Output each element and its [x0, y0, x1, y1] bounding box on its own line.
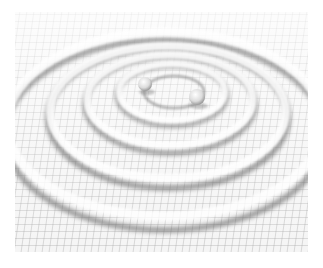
sphere-b-icon — [189, 89, 205, 105]
illustration — [15, 12, 308, 252]
spacetime-ripple-image — [15, 12, 308, 252]
sphere-a-icon — [138, 77, 152, 91]
